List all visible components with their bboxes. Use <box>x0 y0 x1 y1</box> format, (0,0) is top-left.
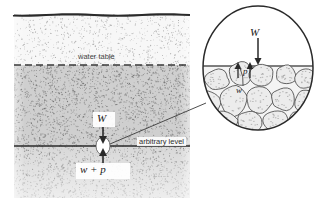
soil-grain <box>295 90 316 112</box>
force-below-label: w + p <box>80 163 106 175</box>
arbitrary-level-label: arbitrary level <box>137 137 186 146</box>
force-above-label: W <box>97 112 106 124</box>
soil-grain <box>229 62 252 86</box>
soil-grain <box>289 112 309 129</box>
inset-pressure-label: p <box>243 66 248 76</box>
figure-canvas: water tablearbitrary levelWw + pWpw <box>0 0 317 206</box>
water-table-label: water table <box>78 52 115 61</box>
inset-load-label: W <box>250 26 259 38</box>
inset-grain-force-label: w <box>236 85 242 95</box>
grain-speckle <box>293 114 305 125</box>
soil-grain <box>263 111 288 131</box>
grain-speckle <box>216 116 229 129</box>
